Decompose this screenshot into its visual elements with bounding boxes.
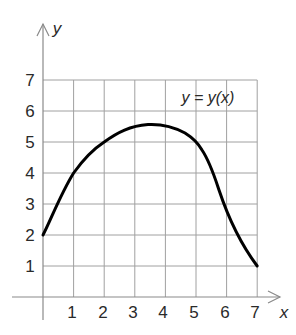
svg-text:7: 7 bbox=[25, 71, 34, 90]
svg-text:3: 3 bbox=[25, 195, 34, 214]
curve-y-of-x bbox=[43, 124, 257, 266]
svg-text:6: 6 bbox=[25, 102, 34, 121]
y-axis-label: y bbox=[52, 19, 63, 38]
x-tick-labels: 1 2 3 4 5 6 7 bbox=[67, 303, 259, 322]
curve-label: y = y(x) bbox=[181, 89, 235, 106]
grid bbox=[43, 80, 257, 297]
svg-text:1: 1 bbox=[25, 257, 34, 276]
axes bbox=[12, 24, 280, 320]
svg-text:5: 5 bbox=[25, 133, 34, 152]
svg-text:7: 7 bbox=[250, 303, 259, 322]
svg-text:2: 2 bbox=[98, 303, 107, 322]
svg-text:4: 4 bbox=[158, 303, 167, 322]
svg-text:5: 5 bbox=[189, 303, 198, 322]
svg-text:3: 3 bbox=[128, 303, 137, 322]
x-axis-label: x bbox=[279, 303, 289, 322]
y-tick-labels: 1 2 3 4 5 6 7 bbox=[25, 71, 34, 276]
chart: 1 2 3 4 5 6 7 1 2 3 4 5 6 7 x y y = y(x) bbox=[0, 0, 296, 335]
svg-text:6: 6 bbox=[220, 303, 229, 322]
svg-text:2: 2 bbox=[25, 226, 34, 245]
svg-text:4: 4 bbox=[25, 164, 34, 183]
svg-text:1: 1 bbox=[67, 303, 76, 322]
